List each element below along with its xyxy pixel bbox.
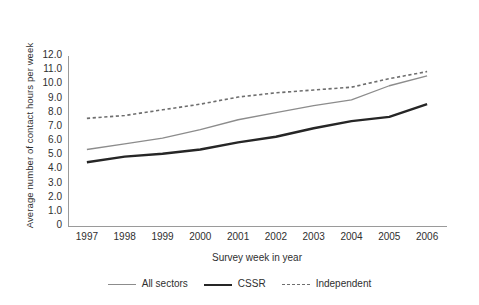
y-tick-label: 12.0: [0, 49, 62, 60]
x-tick-label: 2002: [256, 231, 296, 242]
legend-item-independent[interactable]: Independent: [282, 278, 372, 289]
legend-label: CSSR: [238, 278, 266, 289]
legend-label: All sectors: [142, 278, 188, 289]
legend-item-all-sectors[interactable]: All sectors: [108, 278, 188, 289]
y-axis-tick-labels: 01.02.03.04.05.06.07.08.09.010.011.012.0: [0, 0, 66, 305]
x-tick-label: 1999: [143, 231, 183, 242]
x-tick-label: 2004: [332, 231, 372, 242]
y-tick-label: 3.0: [0, 177, 62, 188]
legend-swatch-icon: [282, 280, 310, 288]
x-axis-title: Survey week in year: [68, 252, 446, 263]
series-lines: [68, 56, 446, 226]
x-tick-label: 1998: [105, 231, 145, 242]
series-line-cssr: [87, 104, 427, 162]
x-tick-label: 2001: [218, 231, 258, 242]
x-tick-label: 2003: [294, 231, 334, 242]
y-tick-label: 9.0: [0, 92, 62, 103]
y-tick-label: 2.0: [0, 191, 62, 202]
chart-figure: Average number of contact hours per week…: [0, 0, 479, 305]
x-axis-spine: [68, 226, 447, 227]
legend-swatch-icon: [108, 280, 136, 288]
x-tick-label: 2006: [407, 231, 447, 242]
x-tick-label: 2005: [369, 231, 409, 242]
y-tick-label: 4.0: [0, 162, 62, 173]
y-tick-label: 8.0: [0, 106, 62, 117]
x-axis-tick-labels: 1997199819992000200120022003200420052006: [68, 231, 448, 247]
series-line-independent: [87, 72, 427, 119]
legend-label: Independent: [316, 278, 372, 289]
y-tick-label: 0: [0, 219, 62, 230]
y-tick-label: 7.0: [0, 120, 62, 131]
x-tick-label: 1997: [67, 231, 107, 242]
x-tick-label: 2000: [180, 231, 220, 242]
y-tick-label: 10.0: [0, 77, 62, 88]
y-tick-label: 6.0: [0, 134, 62, 145]
legend-item-cssr[interactable]: CSSR: [204, 278, 266, 289]
chart-legend: All sectorsCSSRIndependent: [0, 278, 479, 289]
y-tick-label: 5.0: [0, 148, 62, 159]
legend-swatch-icon: [204, 280, 232, 288]
y-tick-label: 1.0: [0, 205, 62, 216]
y-tick-label: 11.0: [0, 63, 62, 74]
plot-area: [68, 56, 446, 226]
